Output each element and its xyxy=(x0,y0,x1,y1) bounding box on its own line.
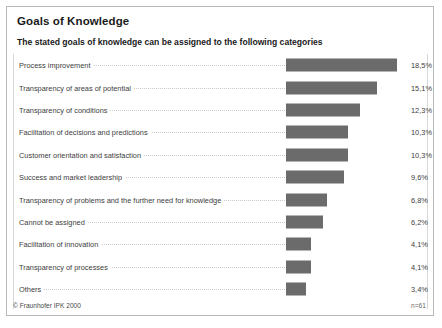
bar-value-label: 6,8% xyxy=(411,195,442,204)
bar-track xyxy=(286,148,410,161)
bar-category-label: Transparency of areas of potential xyxy=(19,83,134,92)
bar-category-label: Facilitation of innovation xyxy=(19,240,101,249)
bar-row: Process improvement18,5% xyxy=(7,54,433,76)
bar-category-label: Success and market leadership xyxy=(19,173,125,182)
bar-row-list: Process improvement18,5%Transparency of … xyxy=(7,54,433,300)
bar-track xyxy=(286,171,410,184)
bar-value-label: 10,3% xyxy=(411,128,442,137)
bar xyxy=(286,171,344,184)
bar-row: Success and market leadership9,6% xyxy=(7,166,433,188)
bar-row: Transparency of conditions12,3% xyxy=(7,99,433,121)
chart-figure: Goals of Knowledge The stated goals of k… xyxy=(6,6,434,316)
bar xyxy=(286,260,311,273)
bar-track xyxy=(286,260,410,273)
leader-line xyxy=(19,289,285,290)
bar-value-label: 10,3% xyxy=(411,150,442,159)
bar xyxy=(286,126,348,139)
bar-track xyxy=(286,103,410,116)
bar xyxy=(286,193,327,206)
bar-row: Transparency of processes4,1% xyxy=(7,256,433,278)
bar-category-label: Customer orientation and satisfaction xyxy=(19,150,144,159)
page-title: Goals of Knowledge xyxy=(17,14,423,28)
bar-row: Facilitation of innovation4,1% xyxy=(7,233,433,255)
bar-category-label: Process improvement xyxy=(19,61,93,70)
chart-plot-area: Process improvement18,5%Transparency of … xyxy=(7,54,433,309)
bar-track xyxy=(286,126,410,139)
bar-track xyxy=(286,81,410,94)
bar-category-label: Transparency of conditions xyxy=(19,105,110,114)
bar xyxy=(286,148,348,161)
bar-row: Others3,4% xyxy=(7,278,433,300)
bar-track xyxy=(286,59,410,72)
bar-value-label: 18,5% xyxy=(411,61,442,70)
bar-value-label: 12,3% xyxy=(411,105,442,114)
chart-header: Goals of Knowledge The stated goals of k… xyxy=(7,7,433,48)
bar-row: Transparency of problems and the further… xyxy=(7,188,433,210)
bar-track xyxy=(286,193,410,206)
copyright-notice: © Fraunhofer IPK 2000 xyxy=(13,302,81,309)
chart-subtitle: The stated goals of knowledge can be ass… xyxy=(17,37,423,48)
bar-category-label: Facilitation of decisions and prediction… xyxy=(19,128,151,137)
bar-track xyxy=(286,215,410,228)
bar-value-label: 6,2% xyxy=(411,217,442,226)
bar-row: Cannot be assigned6,2% xyxy=(7,211,433,233)
bar xyxy=(286,81,377,94)
sample-size-label: n=61 xyxy=(411,302,426,309)
bar-category-label: Transparency of processes xyxy=(19,262,111,271)
bar-track xyxy=(286,238,410,251)
bar xyxy=(286,103,360,116)
bar-row: Transparency of areas of potential15,1% xyxy=(7,76,433,98)
bar-category-label: Others xyxy=(19,285,44,294)
bar-track xyxy=(286,283,410,296)
bar xyxy=(286,215,323,228)
bar-row: Facilitation of decisions and prediction… xyxy=(7,121,433,143)
bar xyxy=(286,59,397,72)
bar-value-label: 3,4% xyxy=(411,285,442,294)
bar-value-label: 9,6% xyxy=(411,173,442,182)
bar-category-label: Cannot be assigned xyxy=(19,217,88,226)
bar xyxy=(286,283,306,296)
bar-row: Customer orientation and satisfaction10,… xyxy=(7,144,433,166)
bar-category-label: Transparency of problems and the further… xyxy=(19,195,224,204)
chart-footer: © Fraunhofer IPK 2000 n=61 xyxy=(7,302,433,313)
bar-value-label: 15,1% xyxy=(411,83,442,92)
bar xyxy=(286,238,311,251)
bar-value-label: 4,1% xyxy=(411,240,442,249)
bar-value-label: 4,1% xyxy=(411,262,442,271)
